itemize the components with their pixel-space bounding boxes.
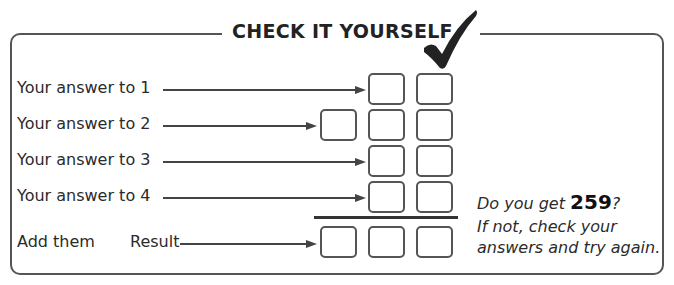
result-tens-box[interactable] [368, 226, 405, 258]
row-4-units-box[interactable] [416, 181, 453, 213]
row-1-label: Your answer to 1 [17, 78, 150, 97]
row-1-units-box[interactable] [416, 73, 453, 105]
target-value: 259 [570, 190, 612, 214]
row-2-tens-box[interactable] [368, 109, 405, 141]
result-units-box[interactable] [416, 226, 453, 258]
row-2-arrow-line [163, 125, 310, 127]
row-2-units-box[interactable] [416, 109, 453, 141]
row-3-units-box[interactable] [416, 145, 453, 177]
arrow-right-icon [355, 86, 366, 94]
note-line-2: If not, check your [477, 217, 617, 236]
note-question: Do you get 259? [477, 190, 620, 214]
row-2-hundreds-box[interactable] [320, 109, 357, 141]
row-3-label: Your answer to 3 [17, 150, 150, 169]
row-1-arrow-line [163, 89, 358, 91]
row-4-label: Your answer to 4 [17, 186, 150, 205]
row-4-tens-box[interactable] [368, 181, 405, 213]
arrow-right-icon [355, 194, 366, 202]
note-prefix: Do you get [477, 194, 570, 213]
arrow-right-icon [306, 240, 317, 248]
result-hundreds-box[interactable] [320, 226, 357, 258]
row-3-tens-box[interactable] [368, 145, 405, 177]
sum-divider-line [314, 216, 458, 219]
arrow-right-icon [355, 158, 366, 166]
checkmark-icon [420, 8, 480, 70]
add-them-label: Add them [17, 232, 95, 251]
note-line-3: answers and try again. [477, 238, 660, 257]
note-suffix: ? [612, 194, 621, 213]
row-2-label: Your answer to 2 [17, 114, 150, 133]
arrow-right-icon [306, 122, 317, 130]
row-3-arrow-line [163, 161, 358, 163]
result-label: Result [130, 232, 179, 251]
row-4-arrow-line [163, 197, 358, 199]
row-1-tens-box[interactable] [368, 73, 405, 105]
result-arrow-line [180, 243, 310, 245]
